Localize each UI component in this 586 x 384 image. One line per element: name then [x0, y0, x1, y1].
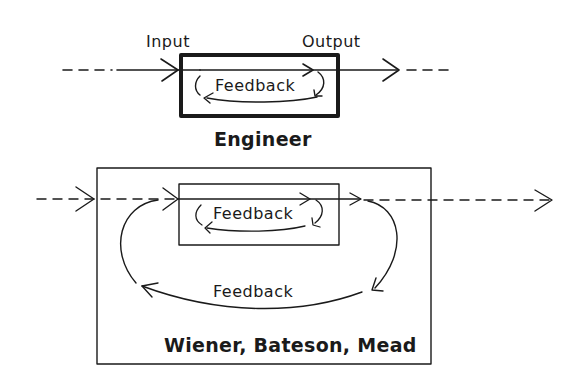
inner-loop-left-curve	[196, 205, 202, 225]
outer-loop-right-curve	[368, 201, 397, 288]
engineer-feedback-label: Feedback	[215, 76, 295, 95]
cybernetics-caption: Wiener, Bateson, Mead	[164, 334, 417, 356]
feedback-diagram: Input Output Feedback Engineer	[0, 0, 586, 384]
output-label: Output	[302, 32, 361, 51]
cybernetics-diagram: Feedback Feedback Wiener, Bateson, Mead	[37, 168, 552, 364]
inner-feedback-left-curve	[196, 76, 201, 95]
inner-loop-bottom-curve	[207, 226, 305, 231]
inner-feedback-right-curve	[316, 72, 324, 95]
inner-loop-right-curve	[315, 200, 322, 223]
inner-loop-left-arrowhead-icon	[205, 222, 212, 233]
inner-feedback-bottom-curve	[207, 97, 317, 102]
inner-feedback-label: Feedback	[213, 204, 293, 223]
outer-loop-left-arrowhead-icon	[142, 283, 158, 297]
outer-loop-left-curve	[121, 200, 158, 283]
outer-feedback-label: Feedback	[213, 282, 293, 301]
engineer-caption: Engineer	[214, 128, 312, 150]
input-label: Input	[146, 32, 190, 51]
engineer-diagram: Input Output Feedback Engineer	[63, 32, 455, 150]
